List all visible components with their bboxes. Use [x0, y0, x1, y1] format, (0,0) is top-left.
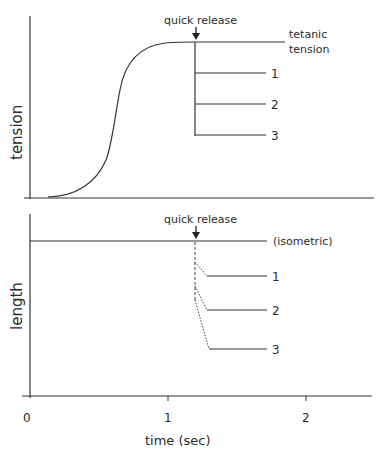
length-drop-1	[195, 262, 207, 276]
x-tick-label-1: 1	[164, 411, 172, 425]
tension-panel: tension tetanic tension 1 2 3 quick rele…	[8, 14, 374, 199]
tetanic-label-2: tension	[289, 43, 330, 56]
length-label-2: 2	[272, 304, 280, 318]
tension-label-2: 2	[271, 98, 279, 112]
quick-release-annotation-top: quick release	[164, 14, 237, 27]
tension-label-1: 1	[271, 67, 279, 81]
tension-label-3: 3	[271, 129, 279, 143]
tension-rise-curve	[48, 42, 195, 197]
length-label-1: 1	[272, 270, 280, 284]
x-axis-label: time (sec)	[145, 433, 211, 448]
length-label-3: 3	[272, 343, 280, 357]
quick-release-diagram: tension tetanic tension 1 2 3 quick rele…	[0, 0, 382, 453]
x-tick-label-0: 0	[23, 411, 31, 425]
tension-axis-label: tension	[8, 105, 26, 160]
length-panel: length (isometric) 1 2 3 quick release 0…	[8, 213, 372, 448]
arrow-head-icon	[192, 33, 200, 40]
length-drop-3	[195, 300, 209, 349]
quick-release-annotation-bottom: quick release	[164, 213, 237, 226]
arrow-head-icon	[192, 232, 200, 239]
isometric-label: (isometric)	[273, 235, 333, 248]
x-tick-label-2: 2	[302, 411, 310, 425]
tetanic-label-1: tetanic	[289, 28, 327, 41]
length-axis-label: length	[8, 282, 26, 330]
